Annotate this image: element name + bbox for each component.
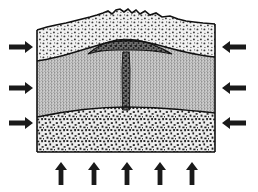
right-arrow-1	[222, 41, 246, 53]
bottom-arrow-2	[88, 162, 100, 185]
bottom-uplift-arrows	[55, 162, 198, 185]
bottom-arrow-4	[154, 162, 166, 185]
cross-section-canvas	[0, 0, 258, 192]
left-arrow-3	[9, 117, 33, 129]
right-arrow-2	[222, 82, 246, 94]
bottom-arrow-5	[186, 162, 198, 185]
left-arrow-2	[9, 82, 33, 94]
bottom-arrow-3	[121, 162, 133, 185]
right-compression-arrows	[222, 41, 246, 129]
left-compression-arrows	[9, 41, 33, 129]
geologic-cross-section-diagram	[0, 0, 258, 192]
left-arrow-1	[9, 41, 33, 53]
bottom-arrow-1	[55, 162, 67, 185]
feeder-dike	[122, 52, 130, 110]
right-arrow-3	[222, 117, 246, 129]
